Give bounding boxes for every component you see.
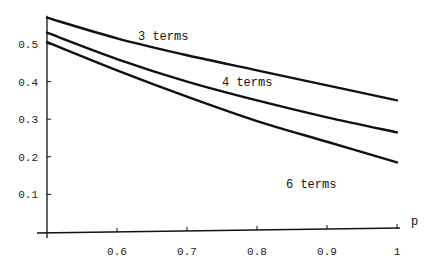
x-tick-label: 0.6 — [107, 246, 127, 258]
label-4-terms: 4 terms — [222, 76, 272, 90]
x-tick-label: 0.8 — [247, 246, 267, 258]
chart: 0.10.20.30.40.50.60.70.80.91p 3 terms4 t… — [0, 0, 437, 262]
x-tick-label: 0.7 — [177, 246, 197, 258]
curve-labels: 3 terms4 terms6 terms — [138, 30, 336, 192]
x-tick-label: 1 — [394, 246, 401, 258]
label-3-terms: 3 terms — [138, 30, 188, 44]
y-tick-label: 0.2 — [18, 152, 38, 164]
y-tick-label: 0.5 — [18, 39, 38, 51]
x-axis — [37, 228, 400, 233]
curve-6-terms — [47, 42, 397, 162]
axes: 0.10.20.30.40.50.60.70.80.91p — [18, 16, 418, 258]
y-tick-label: 0.1 — [18, 189, 38, 201]
label-6-terms: 6 terms — [286, 178, 336, 192]
x-tick-label: 0.9 — [317, 246, 337, 258]
x-axis-label: p — [411, 215, 418, 229]
y-tick-label: 0.4 — [18, 77, 38, 89]
y-tick-label: 0.3 — [18, 114, 38, 126]
curves — [47, 18, 397, 163]
